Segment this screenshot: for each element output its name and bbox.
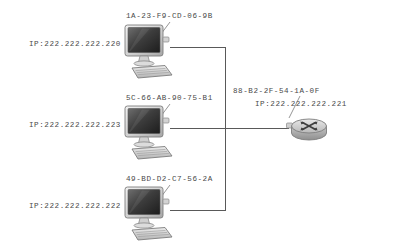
network-diagram: 1A-23-F9-CD-06-9B IP:222.222.222.220 [0,0,407,252]
router-ip-label: IP:222.222.222.221 [255,101,347,109]
desktop-computer-icon [120,184,182,246]
host-1-ip-label: IP:222.222.222.220 [29,41,121,49]
router-device[interactable] [286,113,332,143]
host-1-mac-label: 1A-23-F9-CD-06-9B [126,13,213,21]
host-2-mac-label: 5C-66-AB-90-75-B1 [126,95,213,103]
host-3-ip-label: IP:222.222.222.222 [29,203,121,211]
desktop-computer-icon [120,22,182,84]
router-mac-label: 88-B2-2F-54-1A-0F [233,88,320,96]
host-1-computer[interactable] [120,22,182,84]
host-2-ip-label: IP:222.222.222.223 [29,122,121,130]
host-2-computer[interactable] [120,103,182,165]
host-3-computer[interactable] [120,184,182,246]
host-3-mac-label: 49-BD-D2-C7-56-2A [126,176,213,184]
desktop-computer-icon [120,103,182,165]
router-icon [286,113,332,143]
